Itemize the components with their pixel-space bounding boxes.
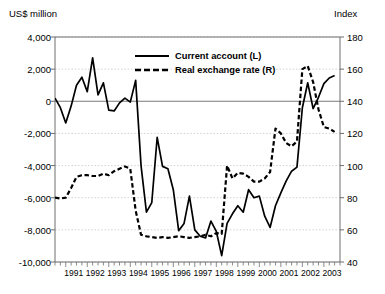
- legend-label-2: Real exchange rate (R): [175, 65, 275, 75]
- series-line-1: [55, 58, 335, 256]
- legend-label-1: Current account (L): [175, 51, 261, 61]
- chart-figure: US$ million Index 4,0002,0000-2,000-4,00…: [0, 0, 385, 294]
- plot-area: Current account (L)Real exchange rate (R…: [0, 0, 385, 294]
